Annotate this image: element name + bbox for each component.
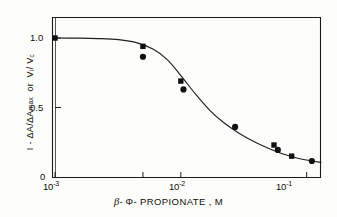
data-point-square <box>289 153 294 158</box>
y-title-vc: / V <box>25 57 35 69</box>
y-axis-title: I - ΔA/ΔAmax or Vi/ Vc <box>25 17 35 187</box>
x-tick-label-1e-3: 10-3 <box>43 180 59 192</box>
x-axis-title-text: - PROPIONATE , M <box>133 196 223 207</box>
data-point-circle <box>232 124 238 130</box>
x-axis-title: β- Φ- PROPIONATE , M <box>0 196 337 207</box>
data-point-circle <box>140 54 146 60</box>
y-title-absorbance: I - ΔA/ΔA <box>25 110 35 150</box>
y-title-vc-sub: c <box>28 54 35 58</box>
x-tick-label-1e-1: 10-1 <box>276 180 292 192</box>
phi-symbol-and-text: - Φ- PROPIONATE , M <box>120 196 223 207</box>
data-point-square <box>178 78 183 83</box>
x-axis-ticks <box>55 172 307 177</box>
fitted-curve <box>55 38 321 162</box>
y-axis-ticks <box>55 38 61 108</box>
data-point-circle <box>275 147 281 153</box>
x-tick-label-1e-2: 10-2 <box>169 180 185 192</box>
data-markers <box>52 35 315 164</box>
y-tick-label-0: 0 <box>40 172 45 182</box>
y-title-vi: V <box>25 71 35 77</box>
y-title-or: or <box>25 83 35 92</box>
data-point-square <box>140 44 145 49</box>
data-point-square <box>52 35 57 40</box>
y-title-vi-sub: i <box>28 69 35 71</box>
figure-panel: 10-3 10-2 10-1 1.0 0.5 0 β- Φ- PROPIONAT… <box>0 0 337 217</box>
data-point-circle <box>309 158 315 164</box>
data-point-square <box>271 142 276 147</box>
y-title-max-subscript: max <box>27 97 34 110</box>
data-point-circle <box>180 86 186 92</box>
